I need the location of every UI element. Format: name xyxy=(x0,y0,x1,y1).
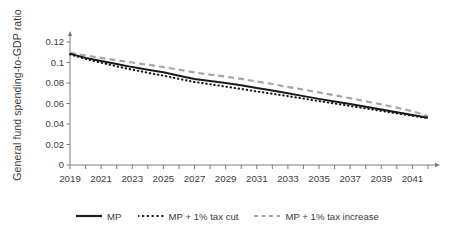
series-line-tax-increase xyxy=(70,53,428,116)
x-tick-label: 2041 xyxy=(402,173,424,184)
legend-swatch-solid xyxy=(76,211,102,221)
x-tick-label: 2027 xyxy=(184,173,206,184)
x-tick-label: 2033 xyxy=(277,173,299,184)
chart-legend: MP MP + 1% tax cut MP + 1% tax increase xyxy=(0,205,455,227)
legend-swatch-dotted xyxy=(138,211,164,221)
y-tick-label: 0.06 xyxy=(46,98,65,109)
x-tick-label: 2025 xyxy=(153,173,175,184)
x-tick-label: 2019 xyxy=(59,173,81,184)
legend-label-mp: MP xyxy=(107,211,121,222)
legend-label-tax-cut: MP + 1% tax cut xyxy=(169,211,239,222)
y-tick-label: 0.02 xyxy=(46,139,65,150)
y-tick-label: 0.12 xyxy=(46,36,65,47)
y-tick-label: 0.1 xyxy=(51,57,64,68)
x-tick-label: 2023 xyxy=(121,173,143,184)
y-tick-label: 0.04 xyxy=(46,118,65,129)
legend-item-tax-increase: MP + 1% tax increase xyxy=(254,211,378,222)
y-tick-label: 0.08 xyxy=(46,77,65,88)
series-line-mp xyxy=(70,54,428,118)
legend-item-tax-cut: MP + 1% tax cut xyxy=(138,211,239,222)
x-tick-label: 2029 xyxy=(215,173,237,184)
y-tick-label: 0 xyxy=(59,159,64,170)
x-tick-label: 2039 xyxy=(371,173,393,184)
legend-item-mp: MP xyxy=(76,211,121,222)
line-chart-plot: 00.020.040.060.080.10.122019202120232025… xyxy=(0,0,455,205)
x-tick-label: 2031 xyxy=(246,173,268,184)
x-tick-label: 2035 xyxy=(308,173,330,184)
legend-swatch-dashed xyxy=(254,211,280,221)
x-tick-label: 2037 xyxy=(339,173,361,184)
legend-label-tax-increase: MP + 1% tax increase xyxy=(285,211,378,222)
chart-figure: General fund spending-to-GDP ratio 00.02… xyxy=(0,0,455,233)
x-tick-label: 2021 xyxy=(90,173,112,184)
